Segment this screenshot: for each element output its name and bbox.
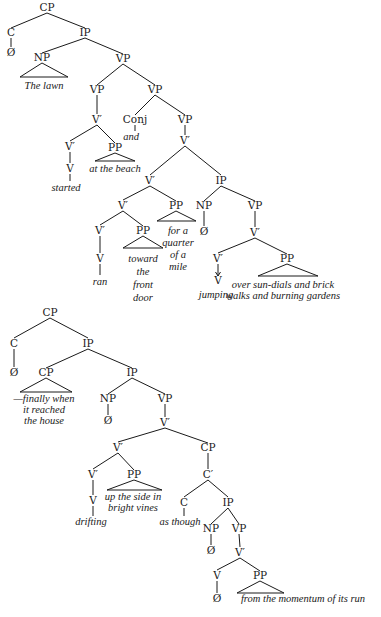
tree-edge [208,480,228,497]
category-node: Ø [10,366,19,378]
terminal-phrase-line: bright vines [108,502,158,513]
tree-edge [118,428,165,442]
category-node: V [95,252,104,264]
terminal-word: The lawn [25,80,64,91]
category-node: PP [253,569,267,581]
terminal-phrase-line: the [137,266,150,277]
category-node: PP [169,199,183,211]
category-node: IP [215,174,226,186]
category-node: V′ [212,252,224,264]
terminal-phrase-line: the house [24,415,64,426]
terminal-phrase-line: walks and burning gardens [226,290,340,301]
category-node: CP [42,306,57,318]
tree-edge [150,146,185,175]
tree-edge [11,13,47,28]
constituent-triangle [157,211,196,221]
terminal-phrase-line: quarter [162,237,194,248]
tree-edge [50,318,88,338]
category-node: C [7,26,15,38]
terminal-phrase-line: it reached [23,404,66,415]
terminal-phrase-line: mile [169,261,187,272]
category-node: V′ [64,140,76,152]
tree-edge [14,318,50,338]
terminal-phrase-line: —finally when [13,393,75,404]
constituent-triangle [237,581,284,593]
category-node: Ø [7,46,16,58]
category-node: VP [89,83,105,95]
category-node: VP [231,522,247,534]
category-node: VP [177,113,193,125]
category-node: Ø [104,414,113,426]
constituent-triangle [107,480,162,490]
category-node: V′ [117,199,129,211]
syntax-tree-diagram: CPCØIPNPThe lawnVPVPVPV′ConjandVPV′V′PPa… [0,0,381,617]
tree-edge [155,95,185,115]
category-node: V [213,274,222,286]
category-node: V [88,494,97,506]
category-node: V′ [249,226,261,238]
category-node: PP [136,224,150,236]
category-node: V [65,162,74,174]
category-node: VP [147,83,163,95]
category-node: V′ [159,416,171,428]
terminal-phrase-line: front [133,279,154,290]
category-node: V′ [234,546,246,558]
category-node: Ø [213,592,222,604]
tree-labels: CPCØIPNPThe lawnVPVPVPV′ConjandVPV′V′PPa… [7,1,365,604]
category-node: Ø [207,544,216,556]
tree-edge [185,146,221,175]
terminal-phrase-line: of a [170,249,186,260]
category-node: IP [82,337,93,349]
category-node: CP [39,1,54,13]
category-node: NP [196,199,212,211]
tree-edge [135,95,155,115]
category-node: NP [203,522,219,534]
constituent-triangle [20,378,72,392]
category-node: V′ [87,468,99,480]
category-node: VP [157,392,173,404]
category-node: V′ [144,174,156,186]
terminal-phrase-line: toward [128,253,158,264]
category-node: NP [34,51,50,63]
tree-edge [184,480,208,497]
constituent-triangle [95,153,135,161]
terminal-phrase-line: up the side in [105,491,161,502]
constituent-triangle [123,236,163,248]
category-node: CP [38,366,53,378]
category-node: PP [127,468,141,480]
category-node: IP [79,26,90,38]
category-node: Ø [200,225,209,237]
terminal-word: started [51,182,81,193]
tree-edge [100,211,123,225]
category-node: VP [247,199,263,211]
tree-edge [88,349,132,368]
category-node: NP [100,392,116,404]
terminal-word: drifting [75,516,107,527]
constituent-triangle [258,264,318,276]
tree-edge [123,186,150,200]
category-node: IP [222,496,233,508]
category-node: V′ [112,441,124,453]
category-node: IP [126,366,137,378]
terminal-word: from the momentum of its run [241,593,365,604]
terminal-word: ran [93,276,108,287]
category-node: VP [115,52,131,64]
category-node: C′ [203,468,214,480]
constituent-triangle [20,63,68,77]
terminal-word: as though [159,516,200,527]
tree-edge [218,238,255,253]
category-node: C [10,337,18,349]
category-node: V′ [179,134,191,146]
category-node: V′ [94,224,106,236]
terminal-word: at the beach [89,163,140,174]
terminal-phrase-line: door [133,292,154,303]
tree-edge [97,64,123,85]
category-node: V′ [91,113,103,125]
terminal-phrase-line: for a [168,225,188,236]
category-node: V [212,569,221,581]
tree-edge [123,64,155,85]
terminal-phrase-line: over sun-dials and brick [232,279,335,290]
category-node: CP [200,441,215,453]
category-node: Conj [123,113,147,125]
tree-edge [70,125,97,141]
